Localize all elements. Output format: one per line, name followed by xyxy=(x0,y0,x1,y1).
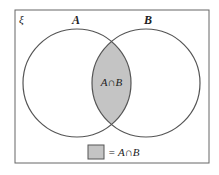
legend-text: = A∩B xyxy=(108,146,140,158)
legend-swatch xyxy=(88,145,104,159)
venn-diagram: ξ A B A∩B = A∩B xyxy=(0,0,219,175)
set-a-label: A xyxy=(71,13,80,27)
universal-set-symbol: ξ xyxy=(19,13,24,26)
set-b-label: B xyxy=(143,13,152,27)
intersection-label: A∩B xyxy=(100,76,123,88)
